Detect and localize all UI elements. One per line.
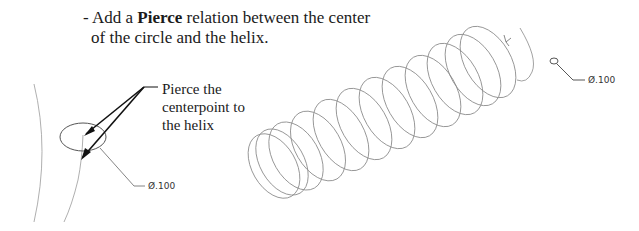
dimension-leader-right — [557, 64, 585, 80]
helix-3d-view — [237, 17, 533, 208]
left-detail-view — [34, 84, 158, 222]
arrow-to-helix — [83, 87, 144, 157]
arrow-to-centerpoint — [86, 87, 144, 134]
cad-drawings — [0, 0, 639, 231]
helix-outer-arc — [34, 84, 42, 222]
helix-curve — [64, 135, 83, 222]
dimension-label-left: Ø.100 — [148, 181, 175, 191]
dimension-leader-left — [100, 148, 145, 186]
profile-circle-small — [550, 58, 558, 64]
dimension-label-right: Ø.100 — [588, 75, 615, 85]
origin-triad-icon — [504, 35, 511, 46]
